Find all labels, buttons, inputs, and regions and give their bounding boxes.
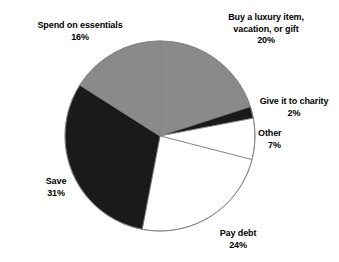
slice-label-give-it-to-charity: Give it to charity 2%: [249, 96, 339, 119]
slice-label-pay-debt: Pay debt 24%: [200, 228, 276, 251]
slice-label-spend-on-essentials-percent: 16%: [14, 32, 146, 44]
slice-label-buy-a-luxury-item-line1: Buy a luxury item,: [228, 12, 304, 22]
slice-label-spend-on-essentials: Spend on essentials 16%: [14, 20, 146, 43]
slice-label-give-it-to-charity-percent: 2%: [249, 108, 339, 120]
slice-label-save: Save 31%: [34, 176, 78, 199]
slice-label-save-percent: 31%: [34, 188, 78, 200]
slice-label-other: Other 7%: [258, 128, 314, 151]
slice-label-buy-a-luxury-item-line2: vacation, or gift: [196, 24, 336, 36]
slice-label-pay-debt-percent: 24%: [200, 240, 276, 252]
slice-label-spend-on-essentials-text: Spend on essentials: [37, 20, 122, 30]
slice-label-buy-a-luxury-item: Buy a luxury item, vacation, or gift 20%: [196, 12, 336, 47]
slice-label-save-text: Save: [46, 176, 67, 186]
slice-label-give-it-to-charity-text: Give it to charity: [260, 96, 329, 106]
slice-label-pay-debt-text: Pay debt: [220, 228, 257, 238]
slice-label-other-percent: 7%: [268, 140, 314, 152]
slice-label-other-text: Other: [258, 128, 282, 138]
slice-label-buy-a-luxury-item-percent: 20%: [196, 35, 336, 47]
pie-chart: Spend on essentials 16% Buy a luxury ite…: [0, 0, 339, 262]
